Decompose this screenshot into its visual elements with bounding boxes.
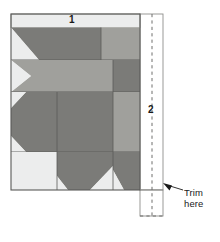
trim-here-line-2: here — [184, 199, 203, 210]
block-row-b — [11, 60, 140, 92]
trim-here-line-1: Trim — [184, 187, 203, 198]
top-border-strip — [11, 14, 140, 28]
trim-leader-line — [170, 186, 183, 190]
block-row-a — [11, 28, 140, 61]
row-b-dark-square — [113, 60, 140, 92]
row-d-left-square — [11, 152, 57, 190]
trim-callout-group — [163, 183, 183, 191]
row-c-left-wedge — [11, 92, 57, 152]
block-row-c — [11, 92, 140, 152]
row-a-medium-square — [101, 28, 140, 61]
row-c-right-column — [113, 92, 140, 152]
trim-here-label: Trimhere — [184, 188, 203, 210]
row-c-centre-square — [57, 92, 113, 152]
strip-two-label: 2 — [148, 104, 154, 116]
trim-arrowhead-icon — [163, 183, 172, 191]
block-row-d — [11, 152, 140, 190]
quilt-trim-diagram: 1 2 Trimhere — [0, 0, 220, 242]
strip-one-label: 1 — [69, 14, 75, 26]
